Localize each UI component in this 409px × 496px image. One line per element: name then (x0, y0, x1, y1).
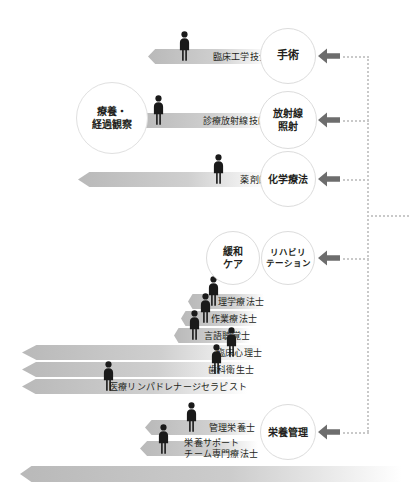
person-icon (100, 361, 117, 391)
treatment-node-palliative[interactable]: 緩和ケア (206, 231, 260, 285)
left-arrow-icon (318, 170, 340, 188)
connector-stub (367, 215, 409, 217)
role-label-line1: 診療放射線技師 (203, 115, 267, 125)
role-label-line2: チーム専門療法士 (184, 449, 258, 459)
person-icon (208, 344, 225, 374)
treatment-node-surgery[interactable]: 手術 (260, 28, 316, 84)
node-label-line: 経過観察 (92, 118, 132, 131)
node-label-line: ケア (223, 258, 243, 271)
treatment-node-chemotherapy[interactable]: 化学療法 (260, 151, 316, 207)
role-bar-label: 理学療法士 (218, 296, 264, 307)
role-bar-label: 医療リンパドレナージセラピスト (109, 381, 247, 392)
role-bar: 薬剤師 (78, 172, 268, 187)
diagram-canvas: 臨床工学技士診療放射線技師薬剤師理学療法士作業療法士言語聴覚士臨床心理士歯科衛生… (0, 0, 409, 496)
treatment-node-radiation[interactable]: 放射線照射 (259, 91, 317, 149)
person-icon (210, 154, 227, 184)
role-bar: 臨床工学技士 (148, 49, 268, 64)
treatment-node-rehab[interactable]: リハビリテーション (261, 231, 315, 285)
person-icon (155, 424, 172, 454)
left-arrow-icon (318, 111, 340, 129)
node-label-line: 照射 (273, 120, 303, 133)
treatment-node-label: 手術 (277, 49, 299, 63)
treatment-node-label: 栄養管理 (268, 426, 308, 439)
person-icon (186, 310, 203, 340)
node-label-line: 緩和 (223, 245, 243, 258)
role-bar-label: 作業療法士 (211, 313, 257, 324)
connector-branch (338, 56, 369, 58)
role-label-line1: 管理栄養士 (209, 422, 255, 432)
node-label-line: 栄養管理 (268, 426, 308, 439)
node-label-line: リハビリ (266, 247, 311, 258)
node-label-line: テーション (266, 258, 311, 269)
connector-spine (367, 56, 369, 432)
node-label-line: 化学療法 (268, 173, 308, 186)
observation-node-label: 療養・経過観察 (92, 105, 132, 131)
left-arrow-icon (318, 249, 340, 267)
connector-branch (338, 258, 369, 260)
person-icon (176, 31, 193, 61)
connector-branch (338, 179, 369, 181)
left-arrow-icon (318, 423, 340, 441)
role-label-line1: 栄養サポート (184, 438, 239, 448)
left-arrow-icon (318, 47, 340, 65)
person-icon (150, 95, 167, 125)
role-label-line1: 理学療法士 (218, 296, 264, 306)
bottom-empty-bar (20, 466, 402, 482)
role-bar-label: 栄養サポートチーム専門療法士 (184, 438, 258, 460)
treatment-node-label: 放射線照射 (273, 107, 303, 133)
connector-branch (338, 120, 369, 122)
treatment-node-nutrition[interactable]: 栄養管理 (260, 404, 316, 460)
observation-node[interactable]: 療養・経過観察 (76, 82, 148, 154)
connector-branch (338, 432, 369, 434)
role-label-line1: 医療リンパドレナージセラピスト (109, 381, 247, 391)
node-label-line: 放射線 (273, 107, 303, 120)
role-label-line1: 作業療法士 (211, 313, 257, 323)
treatment-node-label: 緩和ケア (223, 245, 243, 271)
person-icon (183, 402, 200, 432)
role-bar-label: 管理栄養士 (209, 422, 255, 433)
role-bar-label: 診療放射線技師 (203, 115, 267, 126)
role-bar: 医療リンパドレナージセラピスト (22, 379, 247, 394)
node-label-line: 療養・ (92, 105, 132, 118)
treatment-node-label: リハビリテーション (266, 247, 311, 269)
treatment-node-label: 化学療法 (268, 173, 308, 186)
node-label-line: 手術 (277, 49, 299, 63)
person-icon (223, 327, 240, 357)
